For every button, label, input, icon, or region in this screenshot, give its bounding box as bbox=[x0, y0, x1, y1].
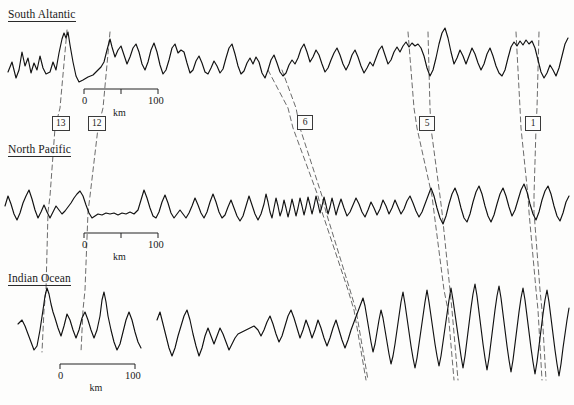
scale-indian-ocean-unit-label: km bbox=[90, 382, 103, 393]
scale-north-pacific-zero-label: 0 bbox=[82, 239, 87, 250]
scale-south-atlantic-hundred-label: 100 bbox=[148, 95, 164, 106]
scale-indian-ocean-hundred-label: 100 bbox=[125, 370, 141, 381]
scale-south-atlantic-zero-label: 0 bbox=[82, 95, 87, 106]
correlation-line-6a bbox=[282, 70, 368, 380]
scale-north-pacific-unit-label: km bbox=[113, 251, 126, 262]
anomaly-12-label: 12 bbox=[88, 116, 106, 131]
scale-indian-ocean-zero-label: 0 bbox=[58, 370, 63, 381]
anomaly-13-label: 13 bbox=[52, 116, 70, 131]
profile-plot-area bbox=[0, 0, 574, 405]
correlation-line-13 bbox=[42, 30, 67, 352]
anomaly-5-label: 5 bbox=[419, 116, 435, 131]
panel-label-south-atlantic: South Altantic bbox=[8, 8, 76, 22]
profile-trace bbox=[5, 184, 569, 224]
correlation-line-5a bbox=[408, 32, 454, 380]
panel-label-indian-ocean: Indian Ocean bbox=[8, 272, 71, 286]
scale-north-pacific-hundred-label: 100 bbox=[148, 239, 164, 250]
anomaly-1-label: 1 bbox=[525, 116, 541, 131]
profile-trace bbox=[8, 28, 568, 82]
correlation-line-12 bbox=[81, 32, 110, 352]
magnetic-anomaly-figure: South Altantic North Pacific Indian Ocea… bbox=[0, 0, 574, 405]
anomaly-6-label: 6 bbox=[297, 115, 313, 130]
panel-label-north-pacific: North Pacific bbox=[8, 143, 71, 157]
scale-south-atlantic-unit-label: km bbox=[113, 107, 126, 118]
scale-bars-group bbox=[60, 89, 158, 369]
scale-indian-ocean-mark bbox=[60, 364, 135, 369]
profile-trace bbox=[18, 288, 141, 350]
